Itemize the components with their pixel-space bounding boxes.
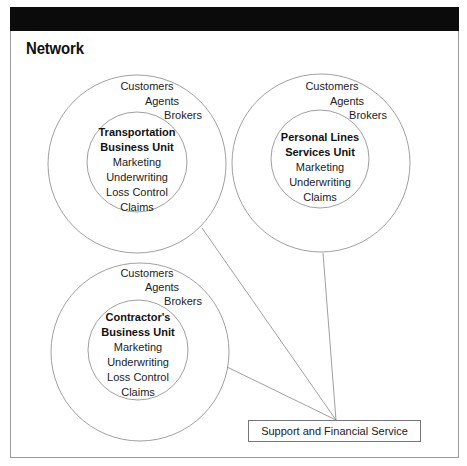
unit-name: Services Unit xyxy=(285,146,355,158)
outer-label: Agents xyxy=(330,95,365,107)
unit-contractors: Customers Agents Brokers Contractor's Bu… xyxy=(51,263,229,441)
unit-function: Underwriting xyxy=(107,356,169,368)
unit-function: Marketing xyxy=(113,156,161,168)
unit-transportation: Customers Agents Brokers Transportation … xyxy=(48,75,226,253)
unit-function: Claims xyxy=(121,386,155,398)
connector-personal-lines xyxy=(323,253,336,420)
unit-function: Marketing xyxy=(296,161,344,173)
unit-function: Claims xyxy=(120,201,154,213)
unit-name: Contractor's xyxy=(106,311,171,323)
unit-function: Loss Control xyxy=(106,186,168,198)
outer-label: Customers xyxy=(120,80,174,92)
network-diagram: Customers Agents Brokers Transportation … xyxy=(0,0,467,466)
connector-contractors xyxy=(227,367,336,420)
outer-label: Agents xyxy=(145,95,180,107)
unit-function: Underwriting xyxy=(106,171,168,183)
outer-label: Brokers xyxy=(164,109,202,121)
unit-function: Claims xyxy=(303,191,337,203)
unit-name: Business Unit xyxy=(101,326,175,338)
connector-transportation xyxy=(202,228,336,420)
unit-name: Personal Lines xyxy=(281,131,359,143)
connectors xyxy=(202,228,336,420)
unit-function: Underwriting xyxy=(289,176,351,188)
outer-label: Agents xyxy=(145,281,180,293)
unit-function: Loss Control xyxy=(107,371,169,383)
outer-label: Customers xyxy=(120,267,174,279)
outer-label: Customers xyxy=(305,80,359,92)
unit-personal-lines: Customers Agents Brokers Personal Lines … xyxy=(232,74,410,252)
unit-name: Transportation xyxy=(98,126,175,138)
unit-function: Marketing xyxy=(114,341,162,353)
outer-label: Brokers xyxy=(349,109,387,121)
outer-label: Brokers xyxy=(164,295,202,307)
hub-label: Support and Financial Service xyxy=(261,425,408,437)
support-financial-service-box: Support and Financial Service xyxy=(248,420,421,442)
unit-name: Business Unit xyxy=(100,141,174,153)
